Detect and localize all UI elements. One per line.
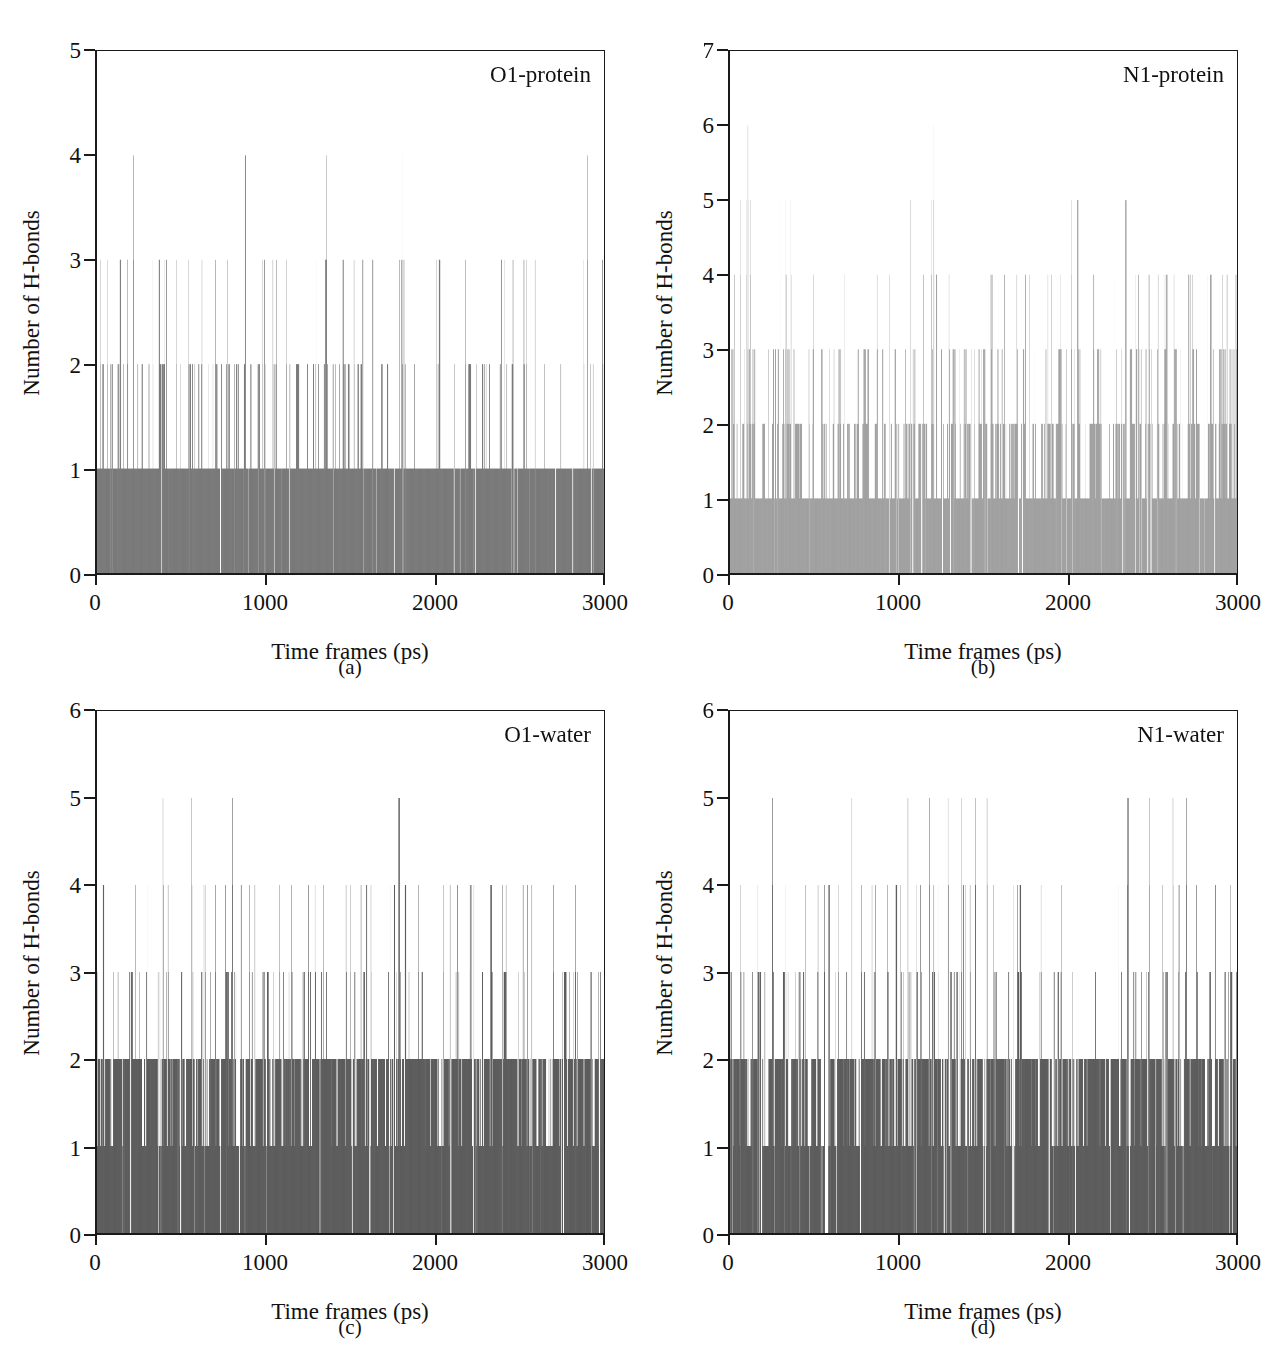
y-tick-mark: [717, 349, 728, 351]
panel-d: 0123456 0100020003000 N1-water Number of…: [633, 682, 1266, 1364]
x-tick-mark: [603, 575, 605, 585]
y-tick-label: 4: [703, 874, 715, 897]
hbond-figure: 012345 0100020003000 O1-protein Number o…: [0, 0, 1266, 1364]
y-tick-mark: [717, 49, 728, 51]
y-tick-label: 5: [703, 786, 715, 809]
y-tick-mark: [717, 972, 728, 974]
y-tick-mark: [717, 199, 728, 201]
y-tick-mark: [717, 1059, 728, 1061]
x-tick-label: 0: [89, 1251, 101, 1274]
y-tick-label: 5: [70, 786, 82, 809]
y-tick-label: 2: [70, 354, 82, 377]
plot-area-a: 012345 0100020003000 O1-protein: [95, 50, 605, 575]
y-tick-mark: [717, 1147, 728, 1149]
series-label-d: N1-water: [1137, 722, 1224, 748]
y-tick-mark: [717, 1234, 728, 1236]
x-tick-mark: [898, 575, 900, 585]
y-tick-mark: [717, 884, 728, 886]
x-tick-mark: [1068, 575, 1070, 585]
y-tick-mark: [84, 1234, 95, 1236]
x-tick-mark: [265, 575, 267, 585]
x-tick-mark: [1236, 575, 1238, 585]
x-tick-label: 2000: [412, 1251, 458, 1274]
x-tick-mark: [265, 1235, 267, 1245]
x-tick-mark: [603, 1235, 605, 1245]
x-tick-label: 2000: [412, 591, 458, 614]
series-canvas-a: [97, 51, 604, 573]
y-tick-label: 2: [703, 414, 715, 437]
x-tick-label: 0: [722, 591, 734, 614]
subfigure-caption-a: (a): [338, 655, 361, 680]
y-tick-mark: [84, 972, 95, 974]
y-tick-label: 6: [70, 699, 82, 722]
x-axis-a: [95, 573, 605, 575]
series-canvas-b: [730, 51, 1237, 573]
x-axis-d: [728, 1233, 1238, 1235]
y-tick-label: 2: [70, 1049, 82, 1072]
panel-c: 0123456 0100020003000 O1-water Number of…: [0, 682, 633, 1364]
y-tick-mark: [84, 49, 95, 51]
x-axis-b: [728, 573, 1238, 575]
y-tick-label: 4: [70, 874, 82, 897]
y-tick-label: 3: [70, 961, 82, 984]
x-tick-label: 3000: [1215, 1251, 1261, 1274]
panel-b: 01234567 0100020003000 N1-protein Number…: [633, 0, 1266, 682]
y-axis-label-b: Number of H-bonds: [652, 193, 678, 413]
x-tick-mark: [728, 1235, 730, 1245]
x-tick-label: 1000: [875, 1251, 921, 1274]
x-tick-label: 0: [722, 1251, 734, 1274]
y-tick-label: 6: [703, 699, 715, 722]
frame-right-b: [1237, 50, 1238, 575]
y-tick-label: 4: [703, 264, 715, 287]
y-tick-mark: [84, 797, 95, 799]
y-axis-label-c: Number of H-bonds: [19, 853, 45, 1073]
x-axis-c: [95, 1233, 605, 1235]
x-tick-label: 3000: [1215, 591, 1261, 614]
y-tick-mark: [84, 364, 95, 366]
y-tick-mark: [84, 259, 95, 261]
x-tick-label: 2000: [1045, 591, 1091, 614]
y-tick-label: 1: [703, 1136, 715, 1159]
y-tick-label: 6: [703, 114, 715, 137]
x-tick-mark: [1236, 1235, 1238, 1245]
series-label-a: O1-protein: [490, 62, 591, 88]
series-canvas-d: [730, 711, 1237, 1233]
x-tick-mark: [1068, 1235, 1070, 1245]
plot-area-b: 01234567 0100020003000 N1-protein: [728, 50, 1238, 575]
x-tick-label: 1000: [875, 591, 921, 614]
x-tick-mark: [95, 1235, 97, 1245]
x-tick-mark: [728, 575, 730, 585]
x-tick-label: 0: [89, 591, 101, 614]
y-tick-mark: [84, 154, 95, 156]
y-tick-label: 2: [703, 1049, 715, 1072]
subfigure-caption-b: (b): [971, 655, 996, 680]
y-axis-label-a: Number of H-bonds: [19, 193, 45, 413]
y-tick-label: 5: [703, 189, 715, 212]
x-tick-label: 1000: [242, 1251, 288, 1274]
y-tick-mark: [717, 574, 728, 576]
x-tick-label: 3000: [582, 1251, 628, 1274]
subfigure-caption-c: (c): [338, 1315, 361, 1340]
x-tick-label: 3000: [582, 591, 628, 614]
y-tick-label: 4: [70, 144, 82, 167]
y-tick-mark: [717, 274, 728, 276]
x-tick-mark: [435, 1235, 437, 1245]
series-label-b: N1-protein: [1123, 62, 1224, 88]
y-tick-label: 0: [70, 564, 82, 587]
y-tick-label: 3: [70, 249, 82, 272]
y-tick-mark: [84, 709, 95, 711]
y-tick-mark: [717, 424, 728, 426]
x-tick-mark: [95, 575, 97, 585]
y-tick-label: 1: [70, 1136, 82, 1159]
y-tick-label: 0: [703, 1224, 715, 1247]
y-tick-label: 3: [703, 961, 715, 984]
y-tick-label: 5: [70, 39, 82, 62]
y-tick-label: 1: [70, 459, 82, 482]
subfigure-caption-d: (d): [971, 1315, 996, 1340]
y-tick-mark: [717, 499, 728, 501]
y-tick-mark: [717, 124, 728, 126]
panel-a: 012345 0100020003000 O1-protein Number o…: [0, 0, 633, 682]
x-tick-mark: [898, 1235, 900, 1245]
y-tick-label: 1: [703, 489, 715, 512]
x-tick-mark: [435, 575, 437, 585]
